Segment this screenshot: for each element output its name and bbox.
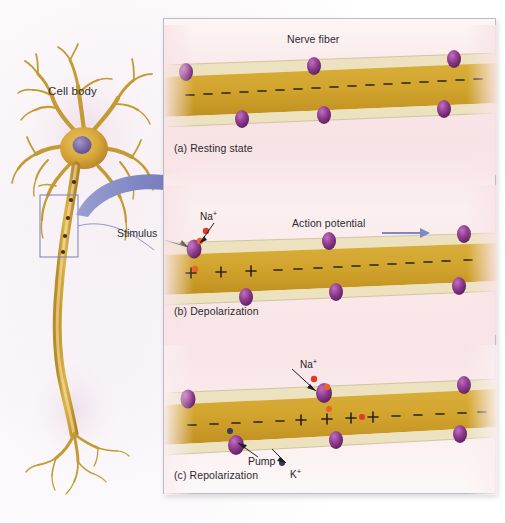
cell-body-label: Cell body xyxy=(48,85,97,97)
subfigure-depolarization: Action potential Na+ (b) Depolarization xyxy=(164,185,497,335)
neuron-svg xyxy=(8,30,168,500)
sodium-label-c: Na+ xyxy=(300,357,317,370)
subfigure-repolarization: Na+ Pump K+ (c) Repolarization xyxy=(164,345,497,495)
caption-repolarization: (c) Repolarization xyxy=(174,469,258,481)
caption-depolarization: (b) Depolarization xyxy=(174,305,259,317)
sodium-label-b-text: Na xyxy=(200,211,213,222)
sodium-label-b: Na+ xyxy=(200,209,217,222)
action-potential-direction-arrow xyxy=(382,227,430,239)
pump-label: Pump xyxy=(248,455,275,467)
potassium-label-c-sup: + xyxy=(297,467,301,476)
sodium-label-b-sup: + xyxy=(213,209,217,218)
figure-root: Cell body xyxy=(0,0,505,523)
action-potential-title: Action potential xyxy=(292,217,365,229)
sodium-label-c-text: Na xyxy=(300,359,313,370)
inset-panel: Nerve fiber (a) Resting state xyxy=(163,18,496,494)
caption-resting-state: (a) Resting state xyxy=(174,142,253,154)
stimulus-label: Stimulus xyxy=(117,227,157,239)
potassium-label-c: K+ xyxy=(290,467,301,480)
nerve-fiber-title: Nerve fiber xyxy=(287,33,339,45)
sodium-label-c-sup: + xyxy=(313,357,317,366)
neuron-illustration: Cell body xyxy=(8,30,168,500)
potassium-label-c-text: K xyxy=(290,469,297,480)
subfigure-resting-state: Nerve fiber (a) Resting state xyxy=(164,25,497,175)
nucleus xyxy=(73,136,92,154)
